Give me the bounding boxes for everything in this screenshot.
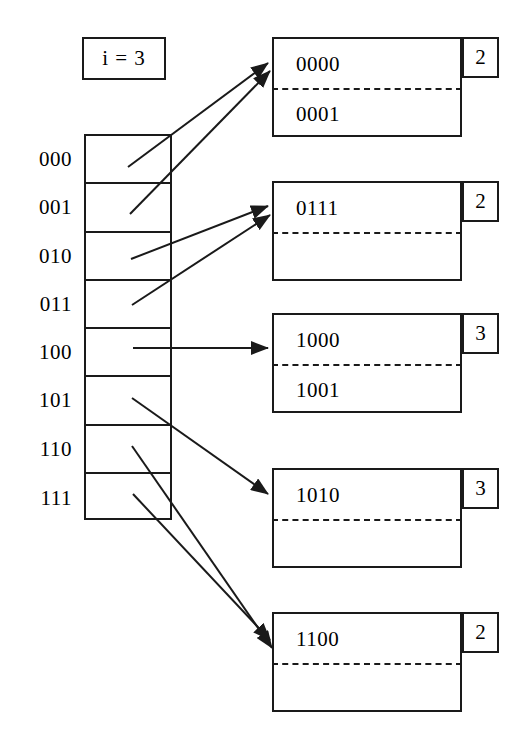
bucket-0: 0000 0001 2	[272, 37, 462, 137]
directory-entry-100[interactable]: 100	[86, 329, 170, 377]
directory-entry-label: 100	[39, 342, 72, 363]
bucket-slot	[274, 520, 460, 570]
directory-entry-label: 111	[41, 487, 72, 508]
directory-table: 000 001 010 011 100 101 110 111	[84, 134, 172, 520]
extendible-hashing-diagram: i = 3 000 001 010 011 100 101 110 111 00	[0, 0, 526, 744]
local-depth-badge: 2	[462, 612, 499, 653]
directory-entry-label: 110	[40, 438, 72, 459]
bucket-3: 1010 3	[272, 468, 462, 568]
bucket-slot: 1001	[274, 365, 460, 415]
bucket-slot-value: 1001	[274, 380, 340, 401]
bucket-slot: 0111	[274, 183, 460, 233]
directory-entry-010[interactable]: 010	[86, 233, 170, 281]
bucket-slot-value: 0001	[274, 104, 340, 125]
bucket-slot-value: 1000	[274, 330, 340, 351]
local-depth-badge: 3	[462, 468, 499, 509]
bucket-slot: 0000	[274, 39, 460, 89]
directory-entry-110[interactable]: 110	[86, 426, 170, 474]
local-depth-badge: 2	[462, 37, 499, 78]
bucket-slot: 1100	[274, 614, 460, 664]
directory-entry-101[interactable]: 101	[86, 377, 170, 425]
bucket-slot: 1000	[274, 315, 460, 365]
directory-entry-label: 011	[40, 293, 72, 314]
local-depth-badge: 2	[462, 181, 499, 222]
directory-entry-001[interactable]: 001	[86, 184, 170, 232]
directory-entry-000[interactable]: 000	[86, 136, 170, 184]
bucket-slot	[274, 664, 460, 714]
directory-entry-011[interactable]: 011	[86, 281, 170, 329]
bucket-slot-value: 0000	[274, 54, 340, 75]
directory-entry-label: 001	[39, 197, 72, 218]
local-depth-badge: 3	[462, 313, 499, 354]
bucket-slot: 1010	[274, 470, 460, 520]
bucket-slot-value: 1010	[274, 485, 340, 506]
bucket-2: 1000 1001 3	[272, 313, 462, 413]
bucket-1: 0111 2	[272, 181, 462, 281]
global-depth-label: i = 3	[102, 48, 146, 69]
bucket-slot-value: 0111	[274, 198, 338, 219]
bucket-4: 1100 2	[272, 612, 462, 712]
bucket-slot: 0001	[274, 89, 460, 139]
directory-entry-label: 101	[39, 390, 72, 411]
global-depth-box: i = 3	[82, 37, 166, 80]
bucket-slot-value: 1100	[274, 629, 339, 650]
directory-entry-label: 010	[39, 245, 72, 266]
directory-entry-label: 000	[39, 149, 72, 170]
bucket-slot	[274, 233, 460, 283]
directory-entry-111[interactable]: 111	[86, 474, 170, 522]
